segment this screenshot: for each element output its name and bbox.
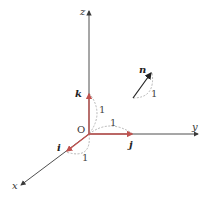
n-label: n [139,64,146,75]
x-axis-label: x [12,180,18,191]
y-axis-label: y [191,121,198,132]
k-length-arc [89,93,97,134]
axes [21,11,198,185]
z-axis-label: z [79,6,86,17]
j-label: j [127,139,133,150]
j-length-label: 1 [110,117,116,128]
n-length-label: 1 [151,88,157,99]
n-vector [133,73,151,98]
coordinate-diagram: z y x O k j i n 1 1 1 1 [0,0,209,198]
i-length-label: 1 [82,152,88,163]
i-label: i [57,142,61,153]
k-label: k [75,88,82,99]
unit-vectors [67,94,132,151]
k-length-label: 1 [99,104,105,115]
i-vector [67,134,89,151]
labels: z y x O k j i n 1 1 1 1 [12,6,198,191]
origin-label: O [77,124,85,135]
